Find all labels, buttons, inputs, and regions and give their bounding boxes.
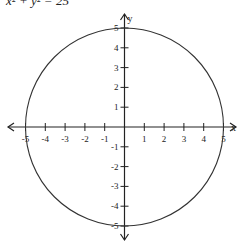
y-tick-label: -4	[111, 201, 119, 211]
y-tick-label: 3	[114, 63, 119, 73]
x-tick-label: -1	[101, 134, 109, 144]
y-tick-label: 2	[114, 82, 119, 92]
y-tick-label: 4	[114, 43, 119, 53]
x-tick-label: 3	[182, 134, 187, 144]
x-tick-label: 2	[162, 134, 167, 144]
x-tick-label: -4	[42, 134, 50, 144]
y-tick-label: -3	[111, 181, 119, 191]
x-tick-label: -3	[61, 134, 69, 144]
x-tick-label: -2	[81, 134, 89, 144]
y-tick-label: -1	[111, 142, 119, 152]
x-tick-label: 1	[142, 134, 147, 144]
circle-graph: xy-5-4-3-2-112345-5-4-3-2-112345	[0, 0, 247, 248]
x-axis-label: x	[231, 122, 236, 133]
y-axis-label: y	[128, 13, 133, 24]
y-tick-label: -2	[111, 162, 119, 172]
x-tick-label: 4	[201, 134, 206, 144]
y-tick-label: 1	[114, 102, 119, 112]
